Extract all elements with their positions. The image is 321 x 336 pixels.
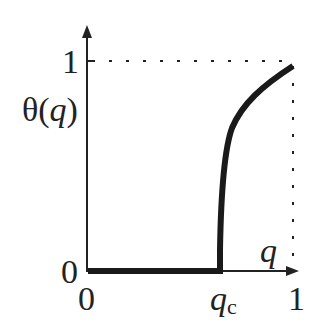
x-axis-label: q [260, 232, 277, 269]
y-tick-label-0: 0 [61, 253, 78, 290]
x-tick-label-qc: qc [210, 280, 237, 319]
phase-transition-chart: 1 θ(q) 0 0 qc 1 q [0, 0, 321, 336]
x-axis-arrow-icon [286, 266, 299, 276]
x-tick-label-1: 1 [288, 280, 305, 317]
y-tick-label-1: 1 [62, 43, 79, 80]
x-tick-label-0: 0 [78, 280, 95, 317]
y-axis-label: θ(q) [22, 91, 78, 129]
y-axis-arrow-icon [82, 25, 92, 38]
